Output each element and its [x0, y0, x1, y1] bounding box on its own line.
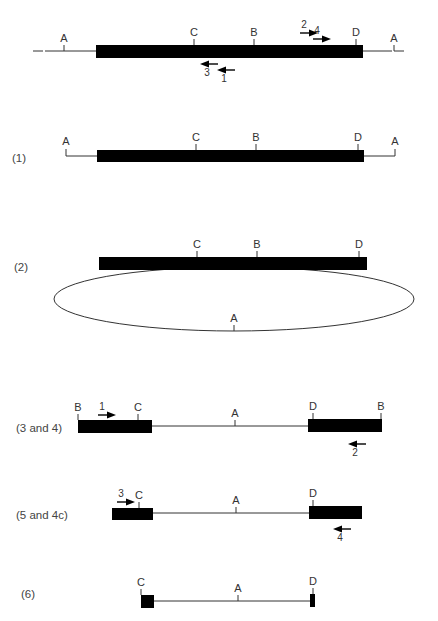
restriction-site-label: D — [355, 238, 363, 250]
panel-original: ACBDA2431 — [33, 19, 404, 84]
restriction-site-label: B — [377, 400, 384, 412]
primer-number-label: 2 — [301, 19, 307, 30]
primer-arrow-head — [107, 412, 116, 419]
primer-number-label: 4 — [337, 532, 343, 543]
primer-number-label: 2 — [352, 447, 358, 458]
primer-arrow-head — [322, 36, 331, 43]
restriction-site-label: C — [137, 576, 145, 588]
primer-1: 1 — [98, 401, 116, 419]
restriction-site-label: A — [232, 494, 240, 506]
restriction-site-label: C — [193, 238, 201, 250]
panel-label: (5 and 4c) — [16, 509, 68, 521]
panel-step-5-4c: (5 and 4c)CAD34 — [16, 487, 362, 543]
primer-4: 4 — [333, 526, 351, 544]
restriction-site-label: A — [391, 135, 399, 147]
primer-number-label: 1 — [221, 73, 227, 84]
restriction-site-label: C — [134, 401, 142, 413]
primer-1: 1 — [217, 67, 235, 85]
primer-3: 3 — [117, 488, 135, 506]
restriction-site-label: A — [62, 135, 70, 147]
primer-3: 3 — [200, 61, 218, 79]
insert-dna-bar — [308, 419, 382, 432]
insert-dna-bar — [96, 45, 363, 58]
panel-step-3-4: (3 and 4)BCADB12 — [16, 400, 385, 458]
panel-step-6: (6)CAD — [21, 575, 317, 608]
restriction-site-label: A — [234, 582, 242, 594]
insert-dna-bar — [112, 508, 153, 520]
restriction-site-label: B — [253, 238, 260, 250]
restriction-site-label: D — [354, 131, 362, 143]
diagram-canvas: ACBDA2431(1)ACBDA(2)CBDA(3 and 4)BCADB12… — [0, 0, 438, 621]
restriction-site-label: A — [231, 407, 239, 419]
primer-number-label: 1 — [99, 401, 105, 412]
panel-label: (3 and 4) — [16, 422, 62, 434]
restriction-site-label: C — [190, 26, 198, 38]
restriction-site-label: A — [230, 312, 238, 324]
insert-dna-bar — [78, 420, 152, 433]
pcr-cloning-diagram: ACBDA2431(1)ACBDA(2)CBDA(3 and 4)BCADB12… — [0, 0, 438, 621]
restriction-site-label: A — [390, 32, 398, 44]
panel-label: (1) — [12, 152, 26, 164]
insert-dna-bar — [310, 594, 315, 607]
primer-number-label: 4 — [314, 25, 320, 36]
restriction-site-label: C — [192, 131, 200, 143]
restriction-site-label: D — [309, 575, 317, 587]
primer-4: 4 — [313, 25, 331, 43]
primer-number-label: 3 — [204, 67, 210, 78]
panel-label: (2) — [14, 261, 28, 273]
primer-number-label: 3 — [118, 488, 124, 499]
insert-dna-bar — [141, 595, 154, 608]
restriction-site-label: B — [74, 401, 81, 413]
restriction-site-label: D — [309, 400, 317, 412]
restriction-site-label: D — [352, 26, 360, 38]
insert-dna-bar — [99, 257, 367, 270]
restriction-site-label: D — [309, 487, 317, 499]
restriction-site-label: C — [135, 489, 143, 501]
restriction-site-label: B — [250, 26, 257, 38]
insert-dna-bar — [309, 506, 362, 519]
insert-dna-bar — [97, 150, 364, 162]
restriction-site-label: B — [252, 131, 259, 143]
panel-label: (6) — [21, 588, 35, 600]
primer-arrow-head — [126, 499, 135, 506]
restriction-site-label: A — [60, 32, 68, 44]
panel-step-2: (2)CBDA — [14, 238, 414, 331]
primer-2: 2 — [348, 441, 366, 459]
panel-step-1: (1)ACBDA — [12, 131, 399, 164]
